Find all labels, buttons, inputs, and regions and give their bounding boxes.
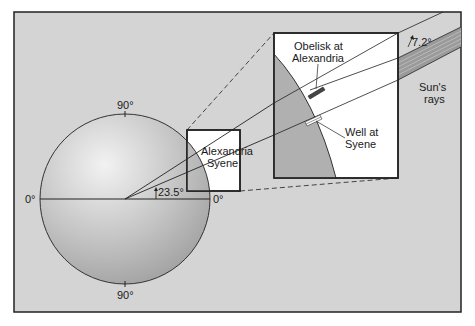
label-north-90: 90° bbox=[117, 99, 134, 111]
label-rays: rays bbox=[424, 93, 445, 105]
label-obelisk-line1: Obelisk at bbox=[294, 40, 343, 52]
label-south-90: 90° bbox=[117, 289, 134, 301]
label-syene: Syene bbox=[207, 157, 238, 169]
label-west-0: 0° bbox=[25, 193, 36, 205]
label-well-line1: Well at bbox=[345, 126, 378, 138]
label-angle-23-5: 23.5° bbox=[158, 186, 184, 198]
label-well-line2: Syene bbox=[345, 138, 376, 150]
label-suns: Sun's bbox=[419, 81, 447, 93]
label-east-0: 0° bbox=[213, 193, 224, 205]
label-obelisk-line2: Alexandria bbox=[292, 52, 345, 64]
label-angle-7-2: 7.2° bbox=[412, 36, 432, 48]
label-alexandria: Alexandria bbox=[201, 145, 254, 157]
diagram-canvas: 90° 90° 0° 0° 23.5° Alexandria Syene bbox=[0, 0, 475, 326]
